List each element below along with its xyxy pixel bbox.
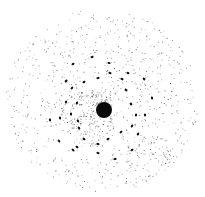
central-beam bbox=[96, 102, 112, 118]
diffraction-image bbox=[0, 0, 205, 197]
